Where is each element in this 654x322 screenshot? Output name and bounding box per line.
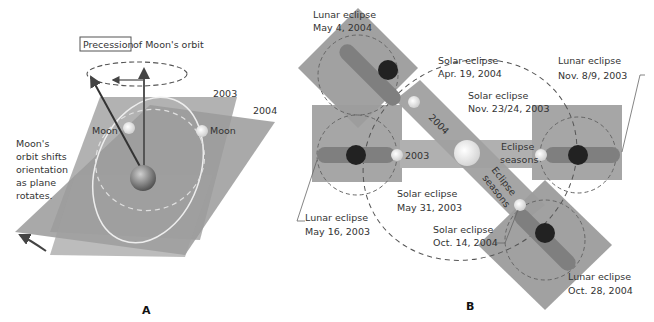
eclipse-label-6-date: May 16, 2003 (305, 226, 370, 237)
eclipse-label-7-date: Oct. 14, 2004 (433, 237, 498, 248)
eclipse-label-1-type: Lunar eclipse (313, 9, 376, 20)
caption-line-1: Moon's (16, 138, 49, 149)
eclipse-label-8-date: Oct. 28, 2004 (568, 285, 633, 296)
moon-icon-left (123, 122, 135, 134)
band-2003-label: 2003 (405, 150, 429, 161)
eclipse-label-3-date: Nov. 8/9, 2003 (558, 70, 627, 81)
earth-dark-left (346, 145, 366, 165)
earth-dark-right (568, 145, 588, 165)
orbital-plane-lower (50, 175, 213, 257)
moon-solar-left (391, 149, 403, 161)
seasons-h-line-1: Eclipse (501, 141, 534, 152)
eclipse-label-5-type: Solar eclipse (397, 188, 458, 199)
moon-solar-top (408, 96, 420, 108)
eclipse-label-2-date: Apr. 19, 2004 (438, 68, 502, 79)
eclipse-label-1-date: May 4, 2004 (313, 22, 372, 33)
eclipse-diagram: Precession of Moon's orbit 2003 2004 Moo… (0, 0, 654, 322)
panel-a-label: A (142, 304, 151, 317)
eclipse-label-8-type: Lunar eclipse (568, 271, 631, 282)
plane-2004-label: 2004 (253, 105, 277, 116)
earth-dark-bottom (535, 223, 555, 243)
title-rest: of Moon's orbit (133, 39, 204, 50)
moon-solar-bottom (514, 199, 526, 211)
panel-a: Precession of Moon's orbit 2003 2004 Moo… (15, 37, 277, 317)
moon-label-left: Moon (92, 125, 118, 136)
title-precession: Precession (83, 39, 134, 50)
panel-b-label: B (466, 300, 474, 313)
precession-ellipse (87, 62, 187, 86)
seasons-h-line-2: seasons (500, 154, 538, 165)
eclipse-label-5-date: May 31, 2003 (397, 202, 462, 213)
caption-line-3: orientation (16, 164, 68, 175)
rotation-arrow-icon (20, 235, 46, 251)
moon-label-right: Moon (210, 125, 236, 136)
eclipse-label-4-date: Nov. 23/24, 2003 (468, 103, 549, 114)
eclipse-label-7-type: Solar eclipse (433, 224, 494, 235)
eclipse-label-6-type: Lunar eclipse (305, 212, 368, 223)
caption-line-4: as plane (16, 177, 56, 188)
eclipse-label-4-type: Solar eclipse (468, 90, 529, 101)
plane-2003-label: 2003 (213, 88, 237, 99)
leader-nov-lunar (622, 75, 645, 152)
panel-b: Lunar eclipse May 4, 2004 Solar eclipse … (297, 8, 645, 313)
caption-line-2: orbit shifts (16, 151, 67, 162)
eclipse-label-3-type: Lunar eclipse (558, 55, 621, 66)
earth-dark-top (378, 60, 398, 80)
sun-icon (454, 140, 480, 166)
earth-icon (130, 165, 156, 191)
eclipse-label-2-type: Solar eclipse (438, 55, 499, 66)
caption-line-5: rotates. (16, 190, 53, 201)
moon-icon-right (196, 125, 208, 137)
